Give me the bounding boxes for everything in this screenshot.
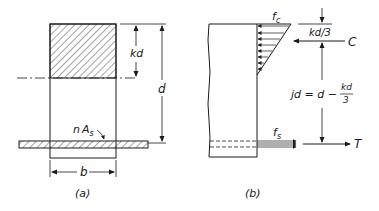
nAs-leader-arrow <box>97 130 104 139</box>
panel-b-stress-diagram: fc kd/3 C jd = d − kd 3 fs T (b <box>208 8 363 200</box>
steel-stress-arrows <box>257 141 296 147</box>
nAs-label: nAs <box>73 123 94 138</box>
C-label: C <box>348 35 357 49</box>
beam-side-outline <box>208 24 257 157</box>
beam-stress-diagram: kd d nAs b (a) <box>0 0 379 211</box>
panel-b-caption: (b) <box>245 187 261 200</box>
jd-equation-lhs: jd = d − <box>289 88 337 101</box>
kd-label: kd <box>130 47 144 60</box>
kd3-label: kd/3 <box>309 27 331 38</box>
jd-equation-denominator: 3 <box>343 95 349 105</box>
d-label: d <box>158 82 166 96</box>
b-label: b <box>80 165 88 179</box>
panel-a-caption: (a) <box>75 187 90 200</box>
panel-a-cross-section: kd d nAs b (a) <box>17 24 166 200</box>
fc-label: fc <box>272 10 281 25</box>
compression-stress-arrows <box>258 26 289 69</box>
jd-equation-numerator: kd <box>341 82 352 92</box>
T-label: T <box>354 137 363 151</box>
compression-stress-triangle <box>257 24 291 75</box>
transformed-steel-strip <box>19 141 148 148</box>
compression-zone-hatch <box>50 24 116 78</box>
fs-label: fs <box>273 126 281 141</box>
